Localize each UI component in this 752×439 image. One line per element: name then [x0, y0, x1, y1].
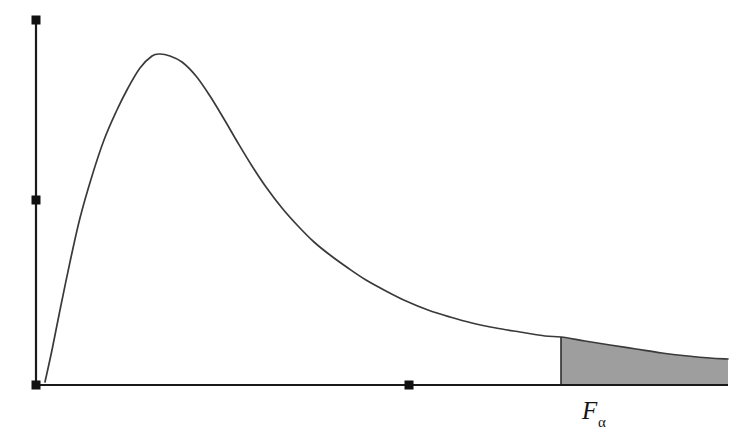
y-axis-top-marker — [32, 16, 41, 25]
critical-value-subscript: α — [598, 414, 606, 430]
f-density-curve — [45, 54, 728, 382]
y-axis-mid-marker — [32, 196, 41, 205]
origin-marker — [32, 381, 41, 390]
critical-value-symbol: F — [581, 397, 598, 424]
f-distribution-chart: F α — [0, 0, 752, 439]
x-axis-mid-marker — [405, 381, 414, 390]
f-distribution-figure: F α — [0, 0, 752, 439]
critical-region-shading — [561, 337, 728, 385]
critical-value-label: F α — [581, 397, 606, 430]
axis-marker-group — [32, 16, 414, 390]
